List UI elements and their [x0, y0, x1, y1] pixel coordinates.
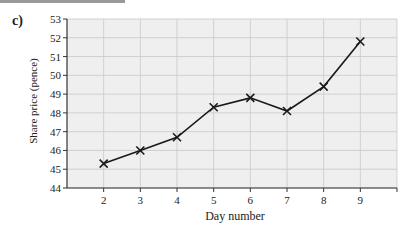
y-tick-label: 49: [50, 88, 62, 100]
x-tick-label: 8: [321, 194, 327, 206]
x-tick-label: 5: [211, 194, 217, 206]
y-tick-label: 48: [50, 107, 62, 119]
x-tick-label: 7: [284, 194, 290, 206]
y-tick-label: 52: [50, 32, 61, 44]
y-tick-label: 45: [50, 163, 62, 175]
y-tick-label: 51: [50, 51, 61, 63]
y-tick-label: 47: [50, 126, 62, 138]
x-tick-label: 4: [174, 194, 180, 206]
line-chart: 4445464748495051525323456789Day number: [0, 0, 403, 228]
x-tick-label: 2: [101, 194, 107, 206]
x-tick-label: 9: [358, 194, 364, 206]
y-tick-label: 53: [50, 13, 62, 25]
x-axis-label: Day number: [205, 209, 265, 223]
x-tick-label: 3: [138, 194, 144, 206]
y-tick-label: 46: [50, 144, 62, 156]
y-tick-label: 44: [50, 182, 62, 194]
y-tick-label: 50: [50, 69, 62, 81]
plot-area: [67, 19, 397, 188]
x-tick-label: 6: [248, 194, 254, 206]
